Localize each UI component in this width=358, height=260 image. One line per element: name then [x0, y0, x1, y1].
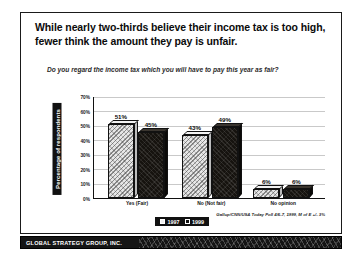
- legend-item-1997[interactable]: 1997: [160, 219, 180, 225]
- bar-1997-no-opinion[interactable]: 6%: [253, 189, 279, 198]
- bar-value-label: 45%: [145, 121, 157, 128]
- bar-side-face: [238, 122, 242, 198]
- bar-top-cap: [284, 185, 314, 189]
- bar-1999-no-not-fair[interactable]: 49%: [212, 127, 238, 198]
- bar-face: [108, 124, 134, 198]
- footer-bar: GLOBAL STRATEGY GROUP, INC.: [20, 236, 342, 249]
- bar-1997-no-not-fair[interactable]: 43%: [182, 135, 208, 198]
- bar-chart: Percentage of respondents 70%60%50%40%30…: [31, 89, 333, 223]
- y-axis-tick-label: 20%: [80, 167, 90, 172]
- bar-value-label: 51%: [115, 113, 127, 120]
- bar-top-cap: [254, 185, 284, 189]
- slide-frame: While nearly two-thirds believe their in…: [20, 12, 342, 234]
- y-axis-tick-label: 10%: [80, 182, 90, 187]
- y-axis-tick-label: 0%: [83, 197, 90, 202]
- plot-area: 51%45%43%49%6%6%: [93, 97, 325, 199]
- chart-legend: 19971999: [155, 217, 209, 226]
- bar-face: [212, 127, 238, 198]
- bar-1999-no-opinion[interactable]: 6%: [283, 189, 309, 198]
- bar-top-cap: [183, 131, 213, 135]
- bar-top-cap: [109, 120, 139, 124]
- bar-face: [182, 135, 208, 198]
- brand-label: GLOBAL STRATEGY GROUP, INC.: [26, 240, 122, 246]
- x-axis-label: No (Not fair): [197, 201, 225, 206]
- bar-top-cap: [213, 123, 243, 127]
- poll-question: Do you regard the income tax which you w…: [47, 65, 297, 75]
- y-axis-title-text: Percentage of respondents: [53, 103, 62, 195]
- y-axis-tick-label: 40%: [80, 138, 90, 143]
- bar-value-label: 6%: [292, 178, 301, 185]
- y-axis-ticks: 70%60%50%40%30%20%10%0%: [69, 97, 91, 207]
- bar-value-label: 6%: [262, 178, 271, 185]
- bar-face: [253, 189, 279, 198]
- legend-swatch: [185, 219, 190, 224]
- page-title: While nearly two-thirds believe their in…: [35, 21, 327, 49]
- bar-group: 51%45%: [108, 97, 168, 198]
- bar-face: [138, 132, 164, 198]
- bar-group: 43%49%: [182, 97, 242, 198]
- bar-value-label: 43%: [189, 124, 201, 131]
- footer-texture: [139, 237, 341, 248]
- y-axis-tick-label: 60%: [80, 109, 90, 114]
- bar-1999-yes-fair[interactable]: 45%: [138, 132, 164, 198]
- legend-swatch: [160, 219, 165, 224]
- x-axis-label: Yes (Fair): [126, 201, 148, 206]
- legend-label: 1997: [168, 219, 180, 225]
- y-axis-title: Percentage of respondents: [51, 101, 63, 197]
- y-axis-tick-label: 30%: [80, 153, 90, 158]
- bar-1997-yes-fair[interactable]: 51%: [108, 124, 134, 198]
- x-axis-label: No opinion: [270, 201, 296, 206]
- bar-group: 6%6%: [253, 97, 313, 198]
- source-note: Gallup/CNN/USA Today Poll 4/6-7, 1999, M…: [216, 212, 325, 217]
- bar-face: [283, 189, 309, 198]
- bar-top-cap: [139, 128, 169, 132]
- bar-series-container: 51%45%43%49%6%6%: [94, 97, 325, 198]
- y-axis-tick-label: 50%: [80, 124, 90, 129]
- bar-side-face: [164, 128, 168, 198]
- bar-value-label: 49%: [219, 116, 231, 123]
- legend-item-1999[interactable]: 1999: [185, 219, 205, 225]
- y-axis-tick-label: 70%: [80, 95, 90, 100]
- legend-label: 1999: [192, 219, 204, 225]
